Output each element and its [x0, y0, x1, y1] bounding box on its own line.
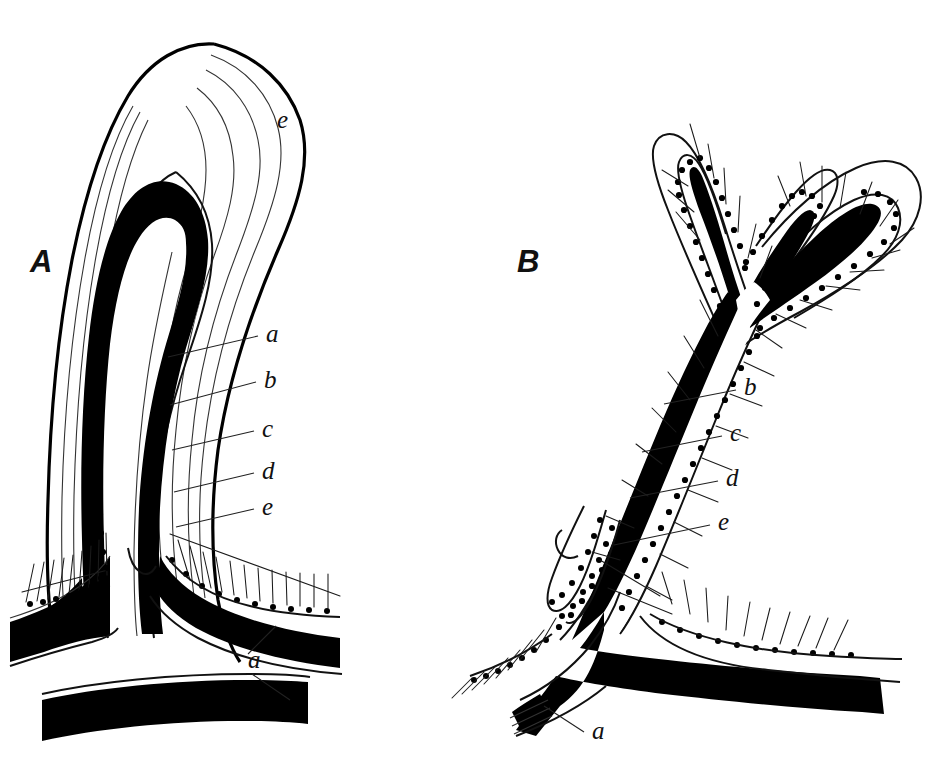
label-a-e-top: e: [277, 106, 288, 133]
label-a-d: d: [262, 457, 275, 484]
figure-plate: A B e a b c d e a b c d e a: [0, 0, 937, 769]
panel-letter-a: A: [29, 244, 52, 279]
label-b-d: d: [726, 464, 739, 491]
label-b-e: e: [718, 508, 729, 535]
label-a-b: b: [264, 366, 277, 393]
label-b-b: b: [744, 373, 757, 400]
label-a-a: a: [266, 320, 279, 347]
panel-letter-b: B: [517, 244, 539, 279]
label-b-c: c: [730, 419, 741, 446]
figure-canvas: A B e a b c d e a b c d e a: [0, 0, 937, 769]
label-b-a-base: a: [592, 717, 605, 744]
label-a-a-base: a: [248, 646, 261, 673]
label-a-c: c: [262, 415, 273, 442]
label-a-e: e: [262, 493, 273, 520]
